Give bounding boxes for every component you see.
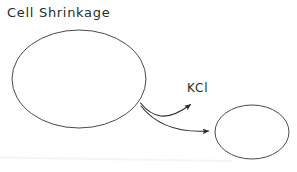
faint-baseline [0,158,232,162]
page-title: Cell Shrinkage [7,5,110,20]
large-cell-ellipse [12,30,146,128]
diagram-canvas: Cell Shrinkage KCl [0,0,297,172]
shrinkage-arrow [141,106,209,131]
kcl-solute-label: KCl [187,81,208,95]
diagram-graphics [0,0,297,172]
small-cell-ellipse [215,105,289,159]
